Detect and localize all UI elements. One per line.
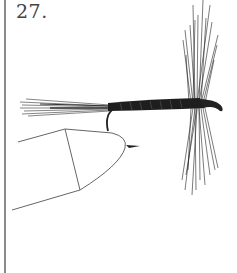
wing-upper bbox=[183, 0, 218, 103]
page: 27. bbox=[0, 0, 237, 273]
tail bbox=[20, 99, 112, 116]
vise-jaw bbox=[12, 129, 125, 210]
fly-illustration bbox=[0, 0, 237, 273]
hackle-lower bbox=[182, 108, 218, 195]
hook-bend bbox=[107, 108, 115, 131]
hook-point bbox=[126, 145, 140, 148]
